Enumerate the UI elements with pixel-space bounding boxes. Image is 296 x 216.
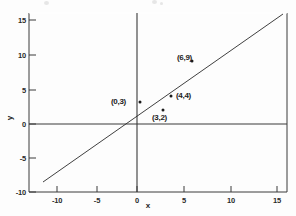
data-point-marker <box>139 101 142 104</box>
data-point-marker <box>162 109 165 112</box>
y-tick-label-15: 15 <box>18 16 26 25</box>
x-tick-label-5: 5 <box>182 196 186 205</box>
y-tick-label-10: 10 <box>18 51 26 60</box>
chart-figure: 15 10 5 0 -5 -10 -10 -5 0 5 10 15 x y (0… <box>0 0 296 216</box>
data-point-marker <box>170 95 173 98</box>
x-tick-label-15: 15 <box>273 196 281 205</box>
plot-canvas <box>0 0 296 216</box>
point-label-0-3: (0,3) <box>111 97 126 106</box>
y-tick-label-5: 5 <box>22 86 26 95</box>
x-tick-label-minus5: -5 <box>94 196 100 205</box>
point-label-6-9: (6,9) <box>177 53 192 62</box>
y-tick-label-minus10: -10 <box>16 188 26 197</box>
x-tick-marks <box>57 186 277 192</box>
x-tick-label-0: 0 <box>135 196 139 205</box>
point-label-4-4: (4,4) <box>176 91 191 100</box>
x-tick-label-10: 10 <box>227 196 235 205</box>
y-axis-title: y <box>5 116 14 120</box>
x-axis-title: x <box>146 201 150 210</box>
y-tick-label-minus5: -5 <box>20 154 26 163</box>
y-tick-marks <box>29 20 36 192</box>
x-tick-label-minus10: -10 <box>52 196 62 205</box>
y-tick-label-0: 0 <box>22 120 26 129</box>
point-label-3-2: (3,2) <box>152 113 167 122</box>
fitted-line <box>43 14 283 182</box>
data-points <box>139 60 194 112</box>
